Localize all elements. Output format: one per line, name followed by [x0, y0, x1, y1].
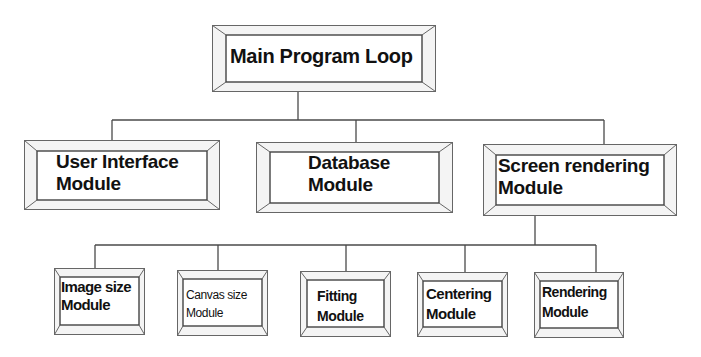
main-program-loop-box: Main Program Loop	[212, 25, 436, 92]
fitting-module-box: Fitting Module	[300, 271, 391, 337]
database-module-label: Database Module	[308, 152, 390, 197]
canvas-size-module-label: Canvas size Module	[186, 286, 247, 322]
database-module-box: Database Module	[256, 142, 453, 213]
screen-rendering-module-label: Screen rendering Module	[498, 155, 649, 200]
rendering-module-label: Rendering Module	[542, 282, 607, 323]
centering-module-label: Centering Module	[426, 284, 492, 323]
fitting-module-label: Fitting Module	[317, 287, 364, 326]
centering-module-box: Centering Module	[417, 272, 508, 337]
image-size-module-box: Image size Module	[54, 268, 145, 335]
rendering-module-box: Rendering Module	[534, 272, 624, 338]
image-size-module-label: Image size Module	[61, 278, 131, 313]
main-program-loop-label: Main Program Loop	[230, 45, 413, 69]
user-interface-module-label: User Interface Module	[56, 151, 179, 196]
user-interface-module-box: User Interface Module	[24, 140, 220, 210]
canvas-size-module-box: Canvas size Module	[177, 270, 268, 336]
screen-rendering-module-box: Screen rendering Module	[483, 144, 677, 216]
